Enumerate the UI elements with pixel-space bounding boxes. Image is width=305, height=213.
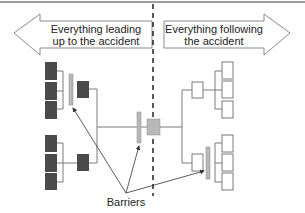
consequence-box [222,135,233,152]
right-tree [182,62,233,190]
left-top-bracket [57,71,63,109]
right-arrow-line2: the accident [184,35,243,47]
barriers-label: Barriers [107,196,146,208]
right-arrow: Everything following the accident [164,14,290,55]
barrier-right-bottom [206,147,210,179]
consequence-box [222,173,233,190]
accident-event-box [147,119,160,135]
left-arrow: Everything leading up to the accident [14,14,152,55]
barrier-left-top [69,74,73,105]
cause-box [45,101,57,119]
cause-box [45,173,57,190]
cause-box [45,62,57,80]
consequence-box [222,154,233,171]
cause-box [45,154,57,172]
consequence-box [222,81,233,98]
cause-box [45,82,57,100]
pointer-arrow-left-barrier [73,108,126,193]
right-bottom-bracket [215,143,222,182]
consequence-intermediate-box [192,82,203,98]
right-top-bracket [215,71,222,109]
left-arrow-line1: Everything leading [51,23,142,35]
consequence-box [222,62,233,79]
right-arrow-line1: Everything following [165,23,263,35]
left-bottom-bracket [57,143,77,182]
barrier-diagram: Everything leading up to the accident Ev… [0,0,305,213]
cause-intermediate-box [77,154,89,171]
left-tree [45,62,150,190]
pointer-arrow-right-barrier [126,171,204,193]
cause-intermediate-box [77,81,89,98]
pointer-arrow-center-barrier [126,146,139,193]
barrier-center [137,112,141,143]
left-arrow-line2: up to the accident [53,35,140,47]
consequence-intermediate-box [192,154,203,171]
cause-box [45,135,57,152]
consequence-box [222,101,233,118]
